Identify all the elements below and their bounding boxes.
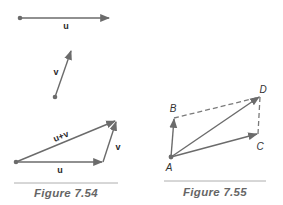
figure-7-55: B D C A Figure 7.55	[164, 84, 267, 198]
figures-canvas: u v u+v v u Figure 7.54 B D C A	[0, 0, 283, 205]
vector-ad	[171, 97, 259, 157]
vector-sum-triangle: u+v v u	[14, 121, 121, 175]
point-a	[169, 155, 174, 160]
vector-u: u	[18, 16, 109, 31]
label-u: u	[63, 21, 69, 31]
label-a: A	[165, 162, 173, 173]
label-triangle-v: v	[115, 142, 120, 152]
label-b: B	[170, 103, 177, 114]
tail-point	[53, 95, 58, 100]
label-c: C	[256, 141, 264, 152]
tail-point	[18, 16, 23, 21]
caption-figure-7-54: Figure 7.54	[34, 187, 98, 199]
label-triangle-u: u	[57, 165, 63, 175]
origin-point	[14, 160, 19, 165]
label-u-plus-v: u+v	[52, 129, 70, 144]
label-v: v	[53, 67, 58, 77]
vector-v: v	[53, 51, 71, 99]
figure-7-54: u v u+v v u Figure 7.54	[14, 16, 121, 199]
dashed-edge-bd	[174, 97, 260, 118]
label-d: D	[259, 84, 266, 95]
vector-ab	[171, 119, 174, 157]
caption-figure-7-55: Figure 7.55	[183, 186, 247, 198]
vector-ac	[171, 134, 257, 157]
dashed-edge-dc	[258, 97, 260, 134]
